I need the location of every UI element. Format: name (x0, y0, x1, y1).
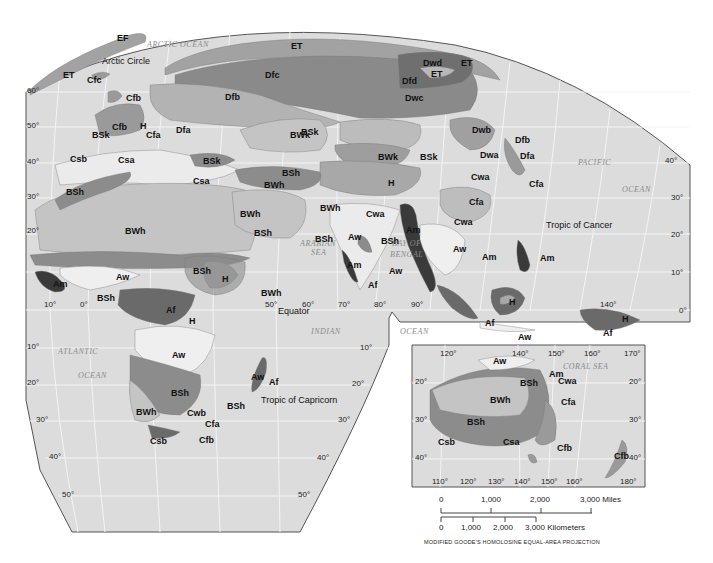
climate-label: Csa (118, 156, 135, 165)
inset-grid-label: 20° (415, 378, 427, 386)
projection-note: MODIFIED GOODE'S HOMOLOSINE EQUAL-AREA P… (424, 539, 600, 545)
climate-map (0, 0, 713, 563)
climate-label: BWh (261, 289, 282, 298)
climate-label: Dfd (402, 77, 417, 86)
inset-grid-label: 120° (440, 350, 457, 358)
climate-label: BWk (290, 131, 310, 140)
inset-grid-label: 30° (415, 416, 427, 424)
climate-label: H (189, 317, 196, 326)
climate-label: ET (431, 70, 443, 79)
latitude-label: 50° (298, 491, 310, 499)
scale-miles-0: 0 (439, 496, 443, 504)
climate-label: Csa (503, 438, 520, 447)
climate-label: Aw (453, 245, 466, 254)
climate-label: BWh (490, 396, 511, 405)
latitude-label: 0° (679, 307, 687, 315)
climate-label: BSh (381, 237, 399, 246)
climate-label: BSk (203, 157, 221, 166)
climate-label: Cwa (471, 173, 490, 182)
climate-label: Cfb (126, 94, 141, 103)
climate-label: BSh (97, 294, 115, 303)
climate-label: Aw (493, 357, 506, 366)
climate-label: Cwb (187, 409, 206, 418)
ocean-label-pacific2: OCEAN (622, 186, 651, 194)
longitude-label: 60° (302, 301, 314, 309)
climate-label: Am (482, 253, 497, 262)
climate-label: Csb (438, 438, 455, 447)
climate-label: ET (63, 71, 75, 80)
climate-label: ET (291, 42, 303, 51)
climate-label: Cfa (529, 180, 544, 189)
climate-label: Cfa (561, 398, 576, 407)
climate-label: Dfa (520, 152, 535, 161)
latitude-label: 40° (27, 158, 39, 166)
longitude-label: 0° (80, 301, 88, 309)
ocean-label-atlantic: ATLANTIC (58, 348, 98, 356)
latitude-label: 20° (671, 231, 683, 239)
ocean-label-pacific: PACIFIC (578, 159, 611, 167)
climate-label: BWh (125, 227, 146, 236)
longitude-label: 140° (600, 301, 617, 309)
climate-label: Am (53, 280, 68, 289)
inset-grid-label: 20° (629, 378, 641, 386)
inset-grid-label: 140° (512, 350, 529, 358)
climate-label: BSh (227, 402, 245, 411)
climate-label: Cwa (454, 218, 473, 227)
climate-label: BWh (240, 210, 261, 219)
climate-label: Cfc (87, 76, 102, 85)
ocean-label-atlantic2: OCEAN (78, 372, 107, 380)
scale-km-3000: 3,000 Kilometers (525, 524, 585, 532)
scale-bar (441, 508, 592, 522)
climate-label: BWh (264, 181, 285, 190)
climate-label: Dwd (423, 59, 442, 68)
climate-label: EF (117, 34, 129, 43)
climate-label: Cfb (199, 436, 214, 445)
climate-label: Af (603, 329, 613, 338)
scale-miles-3000: 3,000 Miles (580, 496, 621, 504)
latitude-label: 40° (317, 454, 329, 462)
climate-label: BWk (378, 153, 398, 162)
inset-grid-label: 40° (415, 454, 427, 462)
scale-km-0: 0 (439, 524, 443, 532)
latitude-label: 10° (671, 269, 683, 277)
inset-grid-label: 170° (624, 350, 641, 358)
inset-grid-label: 160° (566, 478, 583, 486)
scale-miles-2000: 2,000 (530, 496, 550, 504)
ocean-label-bengal2: BENGAL (390, 251, 423, 259)
ocean-label-indian: INDIAN (311, 328, 341, 336)
climate-label: Cfa (146, 131, 161, 140)
inset-grid-label: 40° (629, 454, 641, 462)
climate-label: H (388, 179, 395, 188)
climate-label: Csb (70, 155, 87, 164)
longitude-label: 90° (411, 301, 423, 309)
climate-label: BSh (467, 418, 485, 427)
latitude-label: 30° (27, 193, 39, 201)
climate-label: BSh (315, 235, 333, 244)
climate-label: H (509, 298, 516, 307)
inset-grid-label: 130° (488, 478, 505, 486)
region-tibet-H (320, 161, 421, 196)
latitude-label: 40° (49, 453, 61, 461)
ocean-label-indian2: OCEAN (400, 328, 429, 336)
climate-label: Csa (193, 177, 210, 186)
climate-label: Am (540, 254, 555, 263)
climate-label: Aw (389, 267, 402, 276)
climate-label: BSh (171, 389, 189, 398)
climate-label: Aw (518, 333, 531, 342)
latitude-label: 50° (62, 491, 74, 499)
climate-label: BSh (254, 229, 272, 238)
climate-label: Dfb (515, 136, 530, 145)
latitude-label: 20° (27, 379, 39, 387)
latitude-label: 20° (27, 227, 39, 235)
climate-label: Cwa (558, 377, 577, 386)
climate-label: Aw (348, 233, 361, 242)
climate-label: Dfc (265, 71, 280, 80)
climate-label: BSk (420, 153, 438, 162)
climate-label: Cfb (614, 452, 629, 461)
climate-label: Aw (116, 273, 129, 282)
inset-grid-label: 120° (460, 478, 477, 486)
ocean-label-arctic: ARCTIC OCEAN (147, 41, 209, 49)
inset-grid-label: 160° (584, 350, 601, 358)
longitude-label: 50° (265, 301, 277, 309)
latitude-label: 10° (360, 344, 372, 352)
